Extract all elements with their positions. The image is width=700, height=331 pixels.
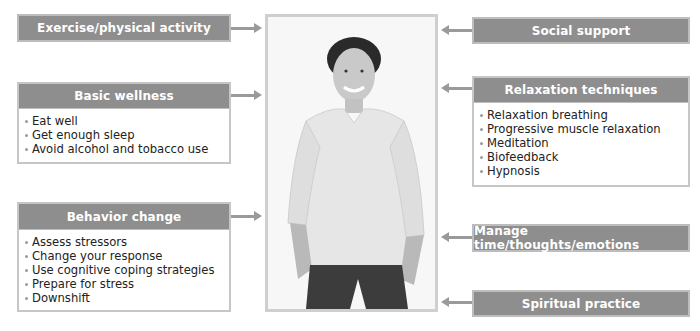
arrow-right-icon (231, 94, 255, 97)
list-item: Progressive muscle relaxation (480, 122, 688, 136)
person-photo (265, 14, 438, 312)
arrow-left-icon (448, 301, 472, 304)
list-item: Hypnosis (480, 164, 688, 178)
list-item: Prepare for stress (25, 277, 229, 291)
exercise-title: Exercise/physical activity (37, 21, 211, 35)
arrow-right-icon (231, 215, 255, 218)
behavior-change-header: Behavior change (19, 204, 229, 230)
relaxation-header: Relaxation techniques (474, 78, 688, 103)
person-photo-icon (268, 17, 435, 309)
arrow-right-icon (231, 27, 255, 30)
list-item: Assess stressors (25, 235, 229, 249)
arrow-left-icon (448, 236, 472, 239)
basic-wellness-list: Eat well Get enough sleep Avoid alcohol … (19, 109, 229, 156)
list-item: Meditation (480, 136, 688, 150)
spiritual-practice-title: Spiritual practice (522, 297, 641, 311)
manage-time-title: Manage time/thoughts/emotions (474, 224, 688, 252)
list-item: Avoid alcohol and tobacco use (25, 142, 229, 156)
list-item: Downshift (25, 291, 229, 305)
arrow-left-icon (448, 87, 472, 90)
basic-wellness-box: Basic wellness Eat well Get enough sleep… (17, 82, 231, 164)
behavior-change-title: Behavior change (67, 210, 182, 224)
list-item: Get enough sleep (25, 128, 229, 142)
list-item: Change your response (25, 249, 229, 263)
exercise-box: Exercise/physical activity (17, 14, 231, 42)
basic-wellness-title: Basic wellness (74, 89, 174, 103)
relaxation-box: Relaxation techniques Relaxation breathi… (472, 76, 690, 187)
behavior-change-list: Assess stressors Change your response Us… (19, 230, 229, 305)
basic-wellness-header: Basic wellness (19, 84, 229, 109)
list-item: Relaxation breathing (480, 108, 688, 122)
social-support-title: Social support (532, 24, 631, 38)
list-item: Use cognitive coping strategies (25, 263, 229, 277)
list-item: Eat well (25, 114, 229, 128)
social-support-box: Social support (472, 17, 690, 44)
arrow-left-icon (448, 29, 472, 32)
relaxation-title: Relaxation techniques (505, 83, 658, 97)
manage-time-box: Manage time/thoughts/emotions (472, 224, 690, 252)
list-item: Biofeedback (480, 150, 688, 164)
relaxation-list: Relaxation breathing Progressive muscle … (474, 103, 688, 178)
behavior-change-box: Behavior change Assess stressors Change … (17, 202, 231, 312)
spiritual-practice-box: Spiritual practice (472, 290, 690, 317)
